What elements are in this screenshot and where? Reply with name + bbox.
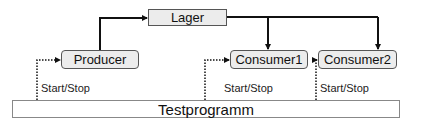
start-stop-label-consumer1: Start/Stop [224,82,273,94]
consumer2-label: Consumer2 [324,52,391,67]
consumer1-node: Consumer1 [230,50,308,69]
edge-test-consumer1 [205,60,229,100]
start-stop-label-producer: Start/Stop [41,82,90,94]
producer-label: Producer [74,52,127,67]
testprogramm-node: Testprogramm [12,100,400,118]
edge-producer-lager [100,18,147,50]
testprogramm-label: Testprogramm [158,101,254,118]
lager-node: Lager [148,9,227,26]
lager-label: Lager [171,10,204,25]
producer-node: Producer [61,50,139,69]
edge-test-producer [37,60,60,100]
edge-test-consumer2 [316,60,317,100]
consumer1-label: Consumer1 [235,52,302,67]
start-stop-label-consumer2: Start/Stop [320,82,369,94]
consumer2-node: Consumer2 [318,50,397,69]
